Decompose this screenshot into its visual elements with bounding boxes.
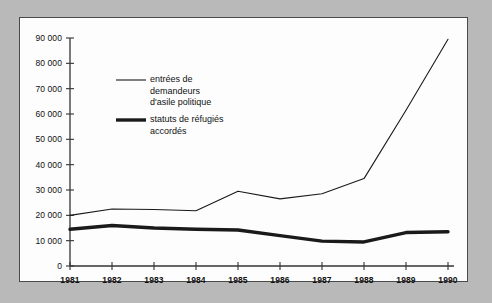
x-axis-tick-label: 1989	[384, 275, 428, 285]
x-axis-tick-label: 1983	[132, 275, 176, 285]
x-axis-tick-label: 1986	[258, 275, 302, 285]
x-axis-tick-label: 1982	[90, 275, 134, 285]
legend-label-line: d'asile politique	[150, 97, 211, 109]
x-axis-tick-label: 1987	[300, 275, 344, 285]
y-axis-tick-label: 50 000	[20, 134, 62, 144]
y-axis-tick-label: 20 000	[20, 210, 62, 220]
legend-label-2: statuts de réfugiésaccordés	[150, 114, 224, 137]
y-axis-tick-label: 90 000	[20, 33, 62, 43]
legend-label-line: demandeurs	[150, 86, 211, 98]
y-axis-tick-label: 80 000	[20, 58, 62, 68]
legend-label-line: statuts de réfugiés	[150, 114, 224, 126]
y-axis-tick-label: 0	[20, 261, 62, 271]
x-axis-tick-label: 1984	[174, 275, 218, 285]
y-axis-tick-label: 10 000	[20, 236, 62, 246]
x-axis-tick-label: 1985	[216, 275, 260, 285]
legend-label-1: entrées dedemandeursd'asile politique	[150, 74, 211, 109]
cut-off-caption	[22, 293, 442, 301]
y-axis-tick-label: 60 000	[20, 109, 62, 119]
chart-panel: 010 00020 00030 00040 00050 00060 00070 …	[19, 17, 468, 282]
y-axis-tick-label: 70 000	[20, 84, 62, 94]
x-axis-tick-label: 1988	[342, 275, 386, 285]
series-line-1	[70, 39, 448, 215]
x-axis-tick-label: 1990	[426, 275, 470, 285]
series-line-2	[70, 225, 448, 241]
y-axis-tick-label: 30 000	[20, 185, 62, 195]
line-chart-plot	[20, 18, 469, 283]
y-axis-tick-label: 40 000	[20, 160, 62, 170]
legend-label-line: accordés	[150, 126, 224, 138]
x-axis-tick-label: 1981	[48, 275, 92, 285]
legend-label-line: entrées de	[150, 74, 211, 86]
